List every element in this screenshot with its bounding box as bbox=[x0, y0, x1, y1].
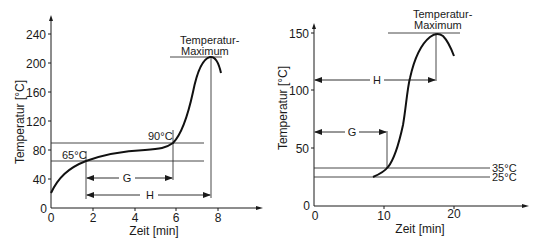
left-temperature-curve bbox=[51, 57, 221, 193]
left-ytick-160: 160 bbox=[26, 86, 46, 100]
left-ytick-80: 80 bbox=[33, 144, 47, 158]
left-xtick-2: 2 bbox=[90, 211, 97, 225]
right-x-axis-label: Zeit [min] bbox=[395, 222, 444, 236]
left-x-axis-label: Zeit [min] bbox=[129, 224, 178, 238]
right-ytick-50: 50 bbox=[296, 142, 310, 156]
right-H-label: H bbox=[373, 74, 381, 86]
left-ytick-40: 40 bbox=[33, 173, 47, 187]
left-ytick-0: 0 bbox=[40, 202, 47, 216]
right-ytick-0: 0 bbox=[303, 199, 310, 213]
right-label-25: 25°C bbox=[492, 171, 517, 183]
left-ytick-120: 120 bbox=[26, 115, 46, 129]
left-ytick-240: 240 bbox=[26, 28, 46, 42]
right-y-axis-arrow-icon bbox=[312, 23, 316, 29]
right-chart: 0 50 100 150 0 10 20 Zeit [min] Temperat… bbox=[276, 8, 529, 236]
left-chart: 0 40 80 120 160 200 240 0 2 4 6 8 Zeit [… bbox=[13, 15, 263, 238]
left-max-label-2: Maximum bbox=[181, 45, 229, 57]
left-ytick-200: 200 bbox=[26, 57, 46, 71]
left-H-label: H bbox=[146, 189, 154, 201]
right-xtick-10: 10 bbox=[377, 209, 391, 223]
left-x-axis-arrow-icon bbox=[256, 206, 263, 210]
right-ytick-100: 100 bbox=[289, 84, 309, 98]
right-xtick-0: 0 bbox=[312, 209, 319, 223]
left-y-axis-label: Temperatur [°C] bbox=[13, 80, 27, 164]
right-ytick-150: 150 bbox=[289, 27, 309, 41]
left-G-label: G bbox=[123, 172, 132, 184]
left-xtick-6: 6 bbox=[173, 211, 180, 225]
left-y-axis-arrow-icon bbox=[49, 15, 53, 21]
right-y-axis-label: Temperatur [°C] bbox=[276, 66, 290, 150]
left-xtick-4: 4 bbox=[132, 211, 139, 225]
left-xtick-0: 0 bbox=[48, 211, 55, 225]
left-label-65: 65°C bbox=[62, 149, 87, 161]
right-temperature-curve bbox=[373, 34, 454, 177]
right-xtick-20: 20 bbox=[447, 207, 461, 221]
right-G-label: G bbox=[348, 126, 357, 138]
right-max-label-2: Maximum bbox=[414, 19, 462, 31]
right-x-axis-arrow-icon bbox=[522, 204, 529, 208]
left-xtick-8: 8 bbox=[215, 211, 222, 225]
left-label-90: 90°C bbox=[148, 130, 173, 142]
